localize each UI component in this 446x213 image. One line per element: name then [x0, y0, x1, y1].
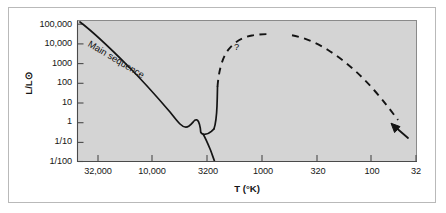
speculative-sequence-curve-right: [292, 35, 398, 120]
direction-arrow: [391, 123, 408, 138]
y-tick-marks: [78, 24, 84, 161]
main-sequence-curve: [80, 22, 214, 134]
axis-lines: [78, 21, 418, 163]
hr-diagram-figure: 100,000 10,000 1000 100 10 1 1/10 1/100 …: [0, 0, 446, 213]
main-sequence-lower-tail: [203, 134, 215, 162]
plot-curves-svg: [0, 0, 446, 213]
brown-dwarf-rise-curve: [214, 87, 218, 129]
x-tick-marks: [98, 155, 416, 162]
speculative-sequence-curve-left: [218, 34, 271, 87]
